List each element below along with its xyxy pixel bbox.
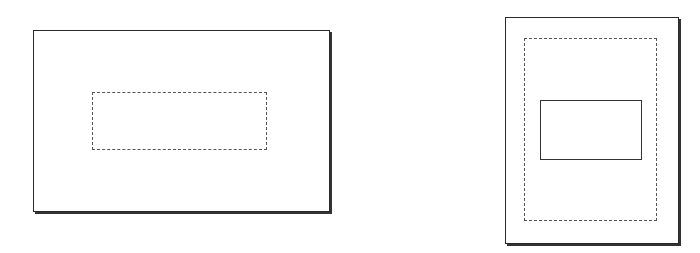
portrait-frame-inner-solid [540,100,642,160]
landscape-frame-inner-dashed [92,92,267,150]
